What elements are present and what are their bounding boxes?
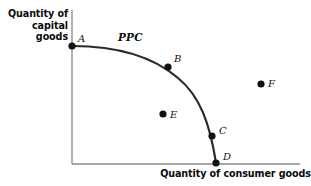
x-axis-title: Quantity of consumer goods <box>160 168 311 180</box>
point-label-d: D <box>223 152 231 162</box>
y-axis-title: Quantity of capital goods <box>6 8 68 43</box>
data-point-f <box>257 80 264 87</box>
data-points <box>68 42 264 166</box>
data-point-c <box>208 132 215 139</box>
data-point-a <box>68 42 75 49</box>
point-label-c: C <box>219 126 227 136</box>
ppc-curve <box>72 46 216 163</box>
point-label-b: B <box>174 54 181 64</box>
ppc-diagram: Quantity of capital goods Quantity of co… <box>0 0 311 186</box>
ppc-curve-label: PPC <box>118 31 143 43</box>
data-point-e <box>159 110 166 117</box>
point-label-a: A <box>78 34 85 44</box>
point-label-e: E <box>170 110 177 120</box>
point-label-f: F <box>268 79 275 89</box>
data-point-b <box>164 63 171 70</box>
data-point-d <box>212 159 219 166</box>
